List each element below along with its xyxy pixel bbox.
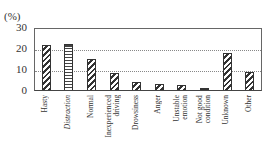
x-label-unknown: Unknown — [222, 95, 230, 125]
bar-other — [245, 72, 254, 90]
x-label-distraction: Distraction — [64, 95, 72, 129]
bar-hasty — [42, 45, 51, 90]
x-label-not-good-condition: Not good condition — [196, 95, 212, 123]
bar-not-good-condition — [200, 88, 209, 90]
bar-inexperienced-driving — [110, 73, 119, 90]
y-tick-30: 30 — [3, 21, 27, 33]
x-label-inexperienced-driving: Inexperienced driving — [105, 95, 121, 137]
x-label-unstable-emotion: Unstable emotion — [173, 95, 189, 122]
y-tick-10: 10 — [3, 63, 27, 75]
y-tick-20: 20 — [3, 42, 27, 54]
y-tick-0: 0 — [3, 84, 27, 96]
x-label-anger: Anger — [154, 95, 162, 114]
bar-anger — [155, 84, 164, 90]
bar-unknown — [223, 53, 232, 90]
x-label-other: Other — [245, 95, 253, 112]
bar-distraction — [64, 44, 73, 91]
x-label-normal: Normal — [87, 95, 95, 118]
x-label-hasty: Hasty — [41, 95, 49, 113]
plot-area — [34, 28, 262, 91]
bar-drowsiness — [132, 82, 141, 90]
bar-unstable-emotion — [177, 85, 186, 90]
bar-normal — [87, 59, 96, 90]
x-label-drowsiness: Drowsiness — [132, 95, 140, 130]
